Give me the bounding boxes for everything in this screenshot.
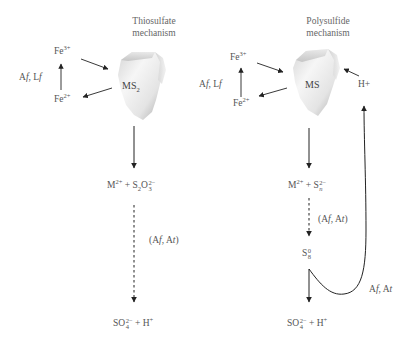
- af-a: A: [199, 79, 206, 89]
- at-t: t: [390, 284, 393, 294]
- plus-h: + H: [307, 318, 324, 328]
- fe2-charge: 2+: [243, 96, 250, 103]
- title-line-1: Polysulfide: [283, 15, 373, 27]
- arrow-fe3-to-mineral-left: [81, 59, 108, 69]
- s8-stack: 08: [308, 248, 311, 260]
- at-a: , A: [162, 235, 173, 245]
- o: O: [141, 180, 148, 190]
- lf-l: , L: [29, 72, 40, 82]
- paren-a: (A: [149, 235, 159, 245]
- title-thiosulfate: Thiosulfate mechanism: [109, 15, 199, 39]
- so-stack: 2−4: [126, 318, 133, 330]
- title-line-1: Thiosulfate: [109, 15, 199, 27]
- mineral-base: MS: [122, 80, 136, 91]
- mineral-label-ms2: MS2: [122, 80, 140, 91]
- fe3-charge: 3+: [64, 44, 71, 51]
- s: S: [302, 248, 307, 258]
- o-sub: 3: [148, 186, 155, 192]
- af-a: A: [369, 284, 376, 294]
- sulfur-label: S08: [302, 248, 311, 260]
- o-stack: 2−3: [148, 180, 155, 192]
- sulfate-product-right: SO2−4 + H+: [287, 318, 327, 330]
- title-line-2: mechanism: [283, 27, 373, 39]
- thiosulfate-product: M2+ + S2O2−3: [107, 180, 155, 192]
- lf-f: f: [39, 72, 42, 82]
- fe2-base: Fe: [54, 94, 64, 104]
- mineral-sub: 2: [136, 86, 139, 93]
- fe3-label-right: Fe3+: [230, 52, 246, 63]
- oxidizer-label-left: Af, Lf: [19, 72, 42, 83]
- sulfate-product-left: SO2−4 + H+: [113, 318, 153, 330]
- mineral-label-ms: MS: [305, 79, 319, 90]
- arrow-loop-to-proton: [309, 106, 366, 294]
- mineral-base: MS: [305, 79, 319, 90]
- step-label-right: (Af, At): [318, 214, 348, 225]
- fe2-label-right: Fe2+: [233, 98, 249, 109]
- fe2-label-left: Fe2+: [54, 94, 70, 105]
- plus: +: [122, 180, 132, 190]
- fe3-label-left: Fe3+: [54, 46, 70, 57]
- so: SO: [287, 318, 299, 328]
- paren-close: ): [344, 214, 347, 224]
- h-charge: +: [150, 316, 154, 323]
- arrow-mineral-to-fe2-right: [259, 88, 287, 96]
- s-sub: n: [319, 185, 322, 192]
- so-stack: 2−4: [300, 318, 307, 330]
- h-charge: +: [324, 316, 328, 323]
- fe2-base: Fe: [233, 98, 243, 108]
- arrow-fe3-to-mineral-right: [257, 63, 283, 72]
- at-a: , A: [379, 284, 390, 294]
- lf-l: , L: [209, 79, 220, 89]
- plus-h: + H: [133, 318, 150, 328]
- loop-label: Af, At: [369, 284, 392, 295]
- s: S: [313, 180, 318, 190]
- proton-label: H+: [358, 79, 370, 90]
- lf-f: f: [219, 79, 222, 89]
- paren-a: (A: [318, 214, 328, 224]
- oxidizer-label-right: Af, Lf: [199, 79, 222, 90]
- step-label-left: (Af, At): [149, 235, 179, 246]
- so: SO: [113, 318, 125, 328]
- fe2-charge: 2+: [64, 92, 71, 99]
- fe3-charge: 3+: [240, 50, 247, 57]
- arrow-mineral-to-fe2-left: [83, 88, 112, 97]
- title-line-2: mechanism: [109, 27, 199, 39]
- at-a: , A: [331, 214, 342, 224]
- arrow-proton-to-mineral: [344, 69, 359, 76]
- s8-sub: 8: [308, 254, 311, 260]
- so-sub: 4: [300, 324, 307, 330]
- fe3-base: Fe: [230, 52, 240, 62]
- polysulfide-product: M2+ + S2−n: [288, 180, 326, 192]
- paren-close: ): [175, 235, 178, 245]
- title-polysulfide: Polysulfide mechanism: [283, 15, 373, 39]
- plus: +: [303, 180, 313, 190]
- so-sub: 4: [126, 324, 133, 330]
- fe3-base: Fe: [54, 46, 64, 56]
- s-stack: 2−n: [319, 180, 326, 192]
- af-a: A: [19, 72, 26, 82]
